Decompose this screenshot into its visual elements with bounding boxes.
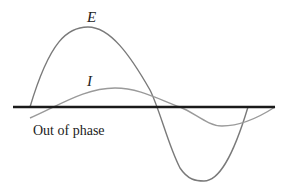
label-e: E <box>86 9 96 25</box>
background <box>0 0 284 191</box>
label-i: I <box>86 73 93 89</box>
caption-out-of-phase: Out of phase <box>33 123 105 138</box>
phase-diagram: E I Out of phase <box>0 0 284 191</box>
